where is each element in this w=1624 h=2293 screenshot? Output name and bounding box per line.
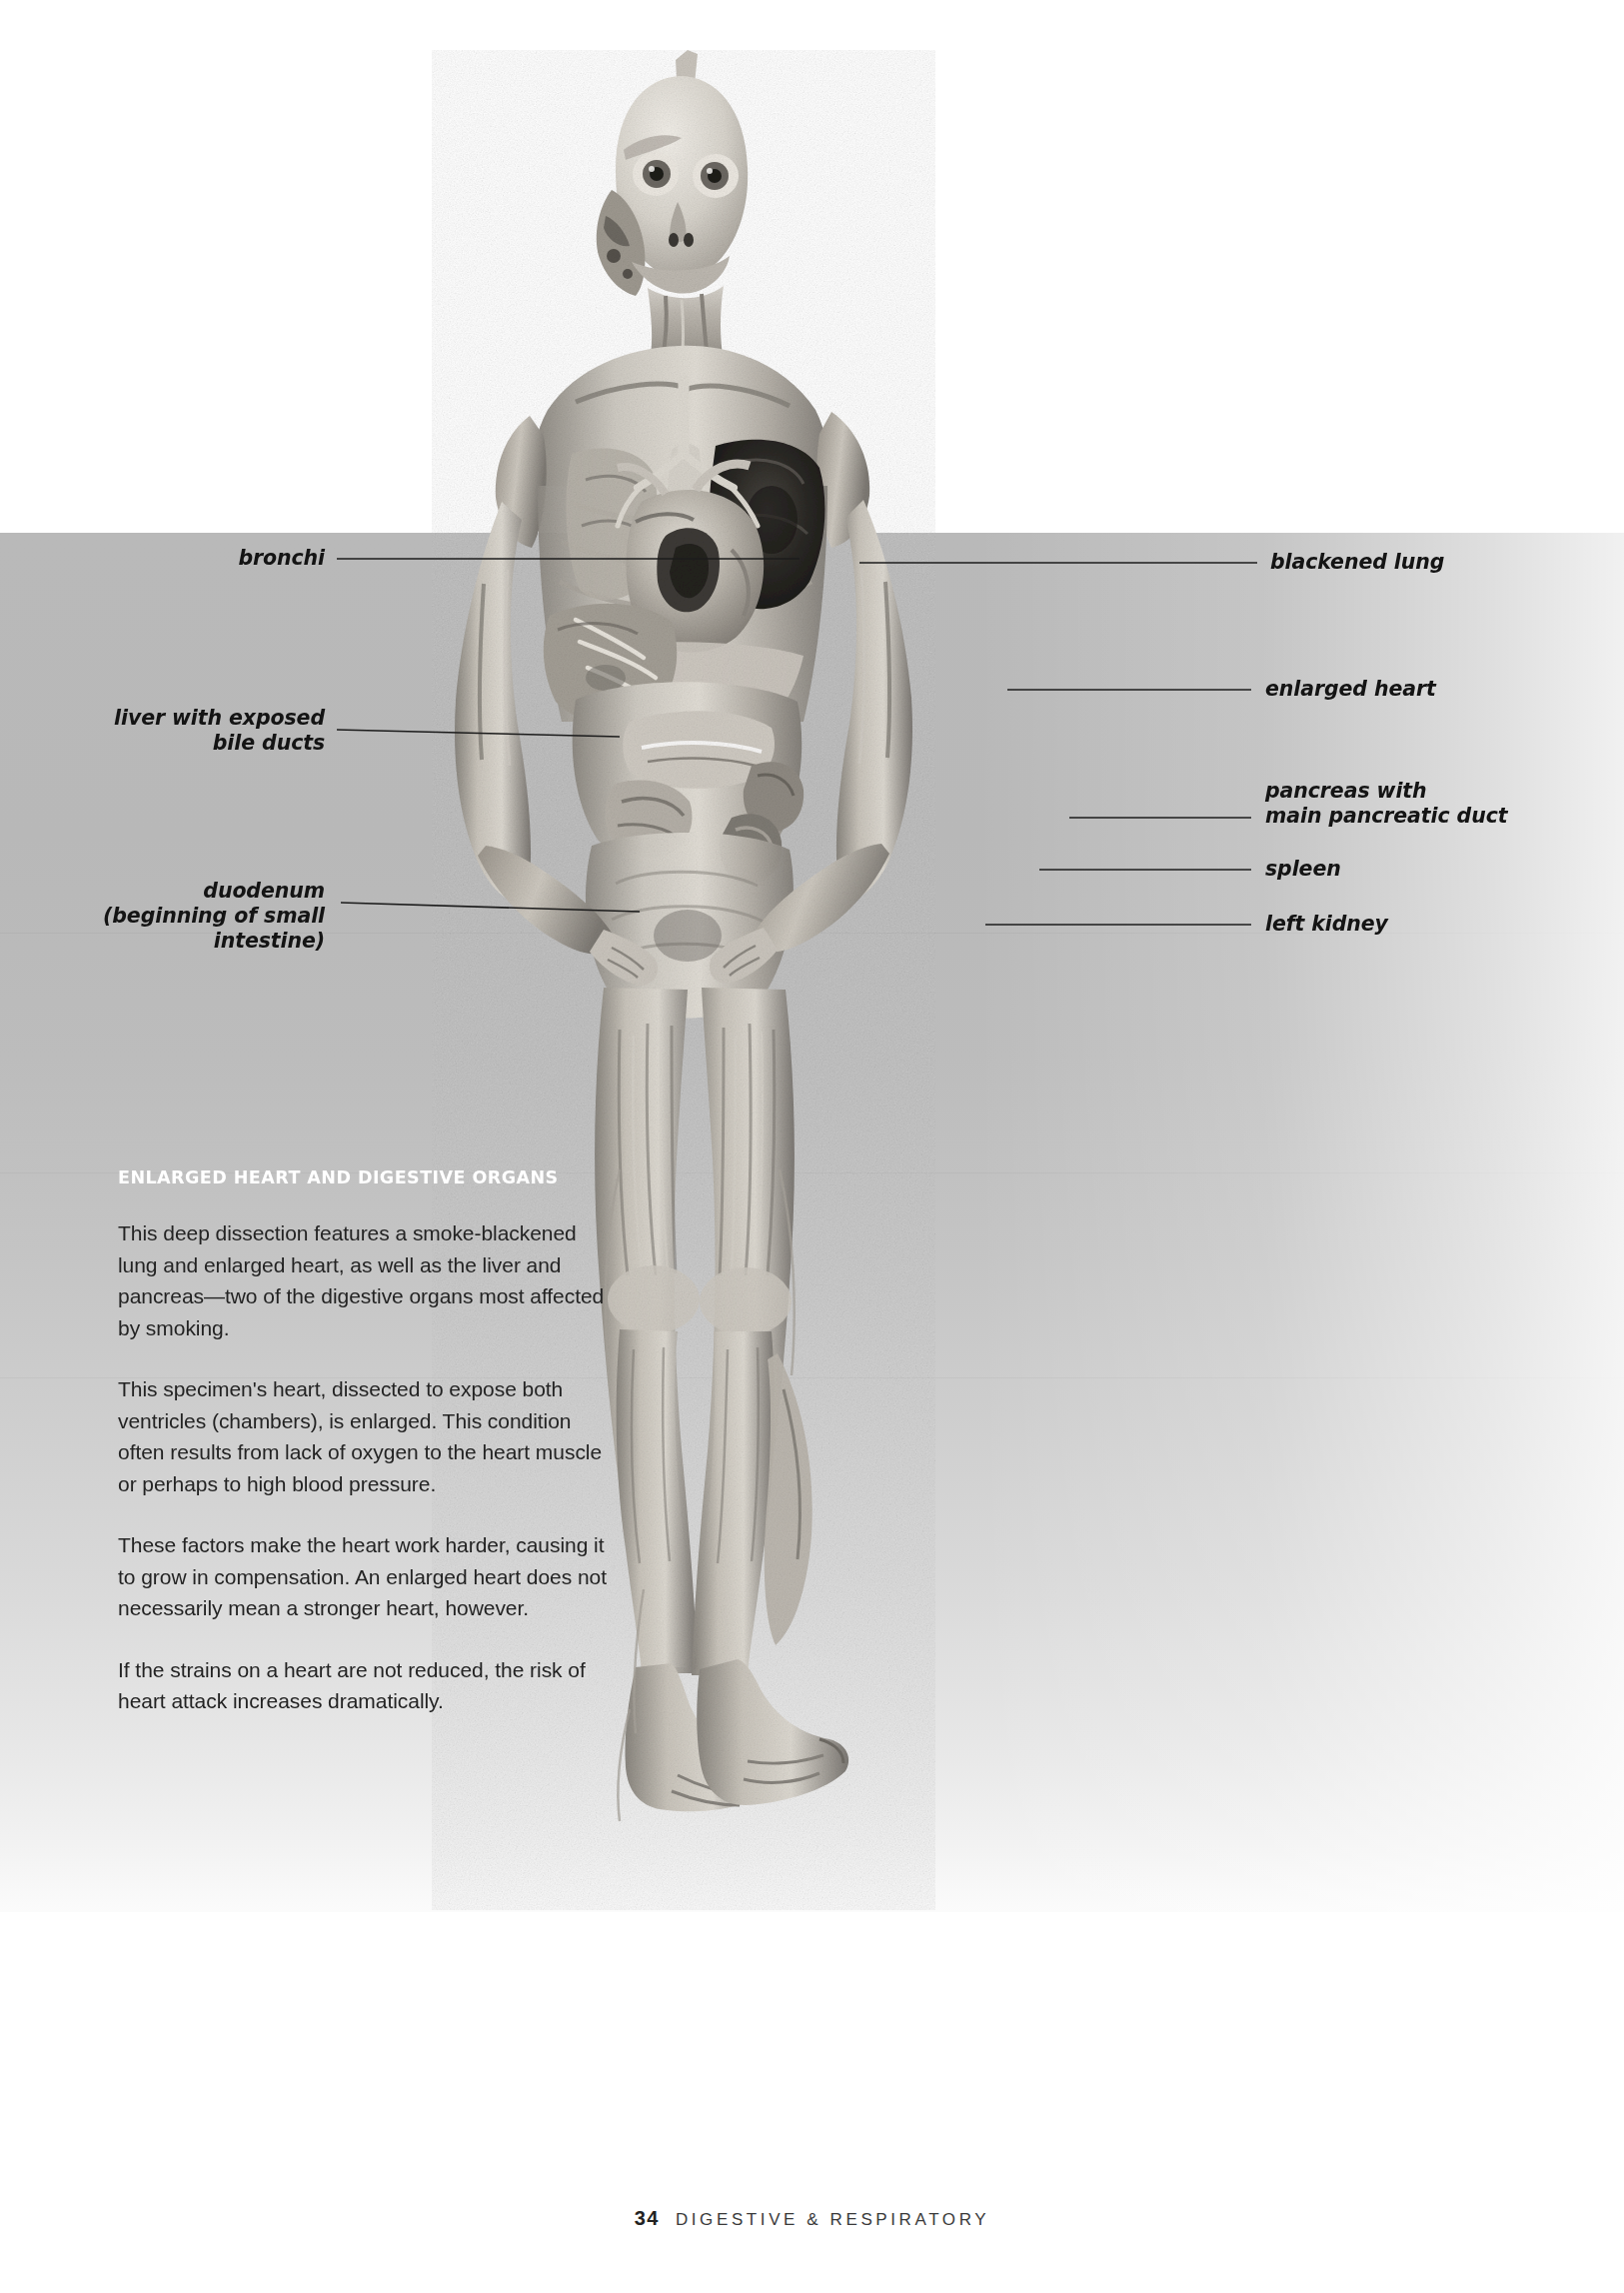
callout-blackened-lung: blackened lung [1270, 550, 1600, 575]
callout-bronchi: bronchi [60, 546, 325, 571]
eye-left [633, 152, 679, 196]
callout-liver: liver with exposed bile ducts [60, 706, 325, 756]
callout-enlarged-heart: enlarged heart [1265, 677, 1595, 702]
leg-right [692, 988, 848, 1805]
article-paragraph-2: This specimen's heart, dissected to expo… [118, 1373, 618, 1499]
page-canvas: bronchi liver with exposed bile ducts du… [0, 0, 1624, 2293]
article-paragraph-4: If the strains on a heart are not reduce… [118, 1654, 618, 1717]
page-footer: 34 DIGESTIVE & RESPIRATORY [0, 2207, 1624, 2230]
article-paragraph-1: This deep dissection features a smoke-bl… [118, 1217, 618, 1343]
article-copy-block: ENLARGED HEART AND DIGESTIVE ORGANS This… [118, 1167, 618, 1717]
callout-pancreas: pancreas with main pancreatic duct [1265, 779, 1610, 829]
page-number: 34 [635, 2207, 660, 2229]
chapter-title: DIGESTIVE & RESPIRATORY [676, 2210, 989, 2229]
head-region [597, 50, 748, 362]
eye-right [693, 154, 739, 198]
anatomical-specimen-figure [380, 50, 1259, 2209]
callout-spleen: spleen [1265, 857, 1595, 882]
article-paragraph-3: These factors make the heart work harder… [118, 1529, 618, 1624]
article-heading: ENLARGED HEART AND DIGESTIVE ORGANS [118, 1167, 618, 1187]
callout-left-kidney: left kidney [1265, 912, 1595, 937]
callout-duodenum: duodenum (beginning of small intestine) [30, 879, 325, 954]
